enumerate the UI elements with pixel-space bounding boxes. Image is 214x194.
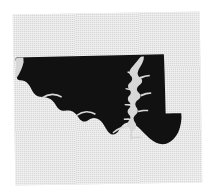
maryland-land-path	[15, 54, 182, 147]
bay-branch-east-tangier-path	[133, 136, 143, 138]
figure-root	[0, 0, 214, 194]
maryland-outline-icon	[13, 12, 203, 186]
maryland-map-layer	[13, 12, 203, 186]
scanned-paper-panel	[13, 12, 203, 186]
